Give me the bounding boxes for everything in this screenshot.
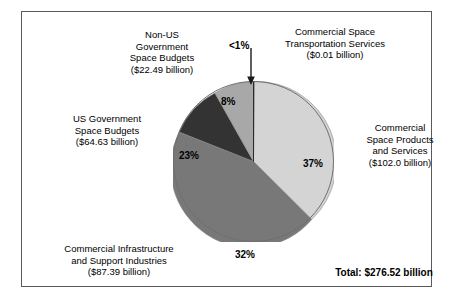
callout-arrow-icon [244,48,258,86]
slice-label-value: ($87.39 billion) [44,266,194,278]
slice-label-line: Government [106,41,218,53]
total-value-label: Total: $276.52 billion [322,267,446,278]
slice-label-nonus-government-budgets: Non-US Government Space Budgets ($22.49 … [106,29,218,75]
slice-label-value: ($0.01 billion) [265,49,405,61]
chart-frame: Non-US Government Space Budgets ($22.49 … [21,11,432,287]
slice-label-value: ($22.49 billion) [106,64,218,76]
slice-label-line: Space Budgets [106,52,218,64]
slice-label-value: ($64.63 billion) [48,136,166,148]
slice-label-commercial-infrastructure: Commercial Infrastructure and Support In… [44,243,194,278]
slice-label-line: Commercial Space [265,26,405,38]
slice-label-line: Space Products [346,134,449,146]
slice-label-commercial-space-transportation: Commercial Space Transportation Services… [265,26,405,61]
slice-percent-us-government-budgets: 23% [179,150,199,161]
slice-label-line: Non-US [106,29,218,41]
slice-label-line: Commercial Infrastructure [44,243,194,255]
slice-label-value: ($102.0 billion) [346,157,449,169]
slice-label-commercial-space-products: Commercial Space Products and Services (… [346,122,449,168]
slice-label-line: and Support Industries [44,255,194,267]
slice-percent-nonus-government-budgets: 8% [221,96,235,107]
slice-label-us-government-budgets: US Government Space Budgets ($64.63 bill… [48,113,166,148]
slice-percent-commercial-space-transportation: <1% [229,40,249,51]
slice-label-line: Transportation Services [265,38,405,50]
slice-percent-commercial-infrastructure: 32% [235,249,255,260]
slice-label-line: Space Budgets [48,125,166,137]
slice-percent-commercial-space-products: 37% [303,158,323,169]
slice-label-line: and Services [346,145,449,157]
slice-label-line: Commercial [346,122,449,134]
slice-label-line: US Government [48,113,166,125]
